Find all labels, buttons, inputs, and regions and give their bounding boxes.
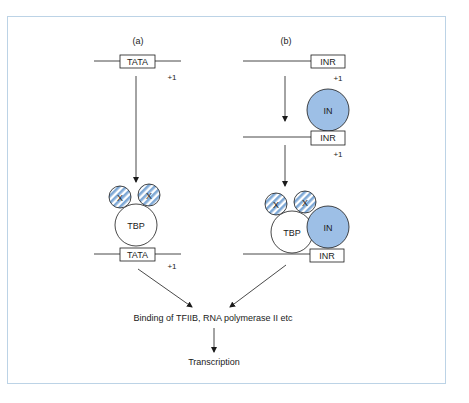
- tata-box-top-label: TATA: [127, 57, 148, 67]
- inr-box-mid-label: INR: [320, 133, 336, 143]
- inr-box-bottom-label: INR: [319, 251, 335, 261]
- factor-x-right-label: X: [146, 191, 152, 201]
- panel-b-label: (b): [281, 36, 292, 46]
- tbp-label: TBP: [127, 221, 145, 231]
- convergence-label: Binding of TFIIB, RNA polymerase II etc: [134, 313, 293, 323]
- arrow-converge-a: [138, 269, 192, 307]
- arrow-converge-b: [230, 265, 286, 307]
- plus-one-marker: +1: [333, 150, 343, 159]
- factor-x-right-label: X: [302, 198, 308, 208]
- panel-a-label: (a): [133, 36, 144, 46]
- tata-box-bottom-label: TATA: [127, 250, 148, 260]
- in-mid-label: IN: [324, 106, 333, 116]
- factor-x-left-label: X: [273, 200, 279, 210]
- panel-b: (b) INR +1 IN INR +1 X X TBP IN INR: [243, 36, 349, 262]
- factor-x-left-label: X: [117, 193, 123, 203]
- transcription-diagram: (a) TATA +1 X X TBP TATA +1 (b) INR +1 I…: [0, 0, 469, 403]
- inr-box-top-label: INR: [320, 57, 336, 67]
- plus-one-marker: +1: [333, 74, 343, 83]
- in-bottom-label: IN: [324, 223, 333, 233]
- plus-one-marker: +1: [167, 73, 177, 82]
- panel-a: (a) TATA +1 X X TBP TATA +1: [94, 36, 181, 271]
- transcription-label: Transcription: [188, 357, 240, 367]
- tbp-label: TBP: [283, 228, 301, 238]
- plus-one-marker: +1: [167, 262, 177, 271]
